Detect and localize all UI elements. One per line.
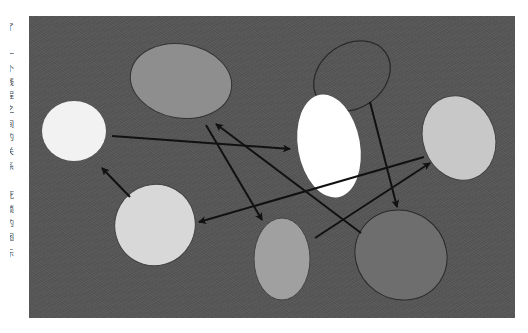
edge-white-left-to-white-center [112,136,290,149]
node-white-left [42,101,106,161]
edge-light-bottom-left-to-white-left [102,168,130,197]
node-light-right [410,85,507,190]
node-gray-bottom [254,218,310,300]
resource-graph-diagram [0,0,528,333]
edge-outline-top-to-dark-bottom-right [370,102,397,207]
node-light-bottom-left [100,169,210,280]
node-white-center [289,89,368,202]
node-gray-top [124,36,237,127]
nodes-layer [42,26,508,318]
